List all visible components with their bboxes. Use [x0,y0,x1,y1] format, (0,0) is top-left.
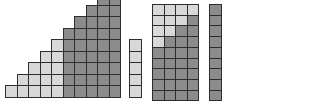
block-cell [109,39,122,52]
block-cell [209,90,222,101]
block-cell [129,85,142,98]
block-cell [109,28,122,41]
block-cell [109,62,122,75]
block-cell [209,100,222,101]
block-cell [187,90,200,101]
block-cell [109,5,122,18]
block-cell [109,51,122,64]
block-cell [187,100,200,101]
block-cell [109,85,122,98]
block-cell [109,0,122,6]
block-cell [109,16,122,29]
block-cell [109,74,122,87]
